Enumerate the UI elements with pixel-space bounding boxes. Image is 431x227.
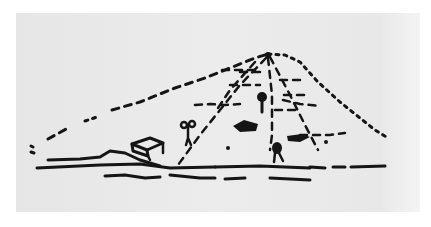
bench-center [233, 120, 258, 132]
person-center [257, 92, 267, 112]
ground-lines [37, 140, 385, 180]
sketch-drawing [0, 0, 431, 227]
person-right [272, 142, 283, 162]
person-left [181, 121, 195, 145]
bench-left [132, 138, 163, 160]
